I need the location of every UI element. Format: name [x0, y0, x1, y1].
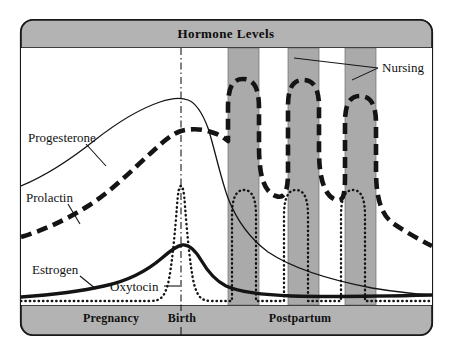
series-label-estrogen: Estrogen	[32, 262, 78, 278]
series-label-progesterone: Progesterone	[28, 130, 96, 146]
series-label-prolactin: Prolactin	[26, 190, 73, 206]
series-label-oxytocin: Oxytocin	[110, 279, 158, 295]
axis-label-postpartum: Postpartum	[230, 311, 370, 326]
chart-canvas	[0, 0, 452, 354]
nursing-band-3	[345, 48, 376, 305]
chart-title: Hormone Levels	[0, 26, 452, 42]
hormone-levels-figure: Hormone Levels Progesterone Prolactin Es…	[0, 0, 452, 354]
axis-label-birth: Birth	[150, 311, 214, 326]
annotation-label-nursing: Nursing	[382, 60, 424, 76]
